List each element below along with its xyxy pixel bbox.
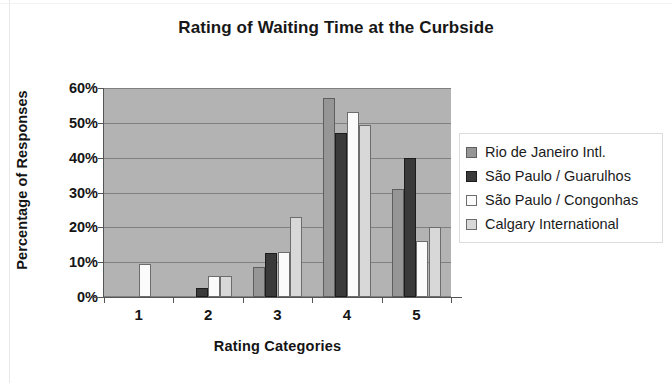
x-axis-tick [312, 297, 313, 303]
legend-label: São Paulo / Guarulhos [485, 168, 631, 184]
bar [278, 252, 290, 297]
y-axis-tick-label: 20% [50, 219, 98, 235]
bar [416, 241, 428, 297]
bar [404, 158, 416, 297]
scan-edge-line-top [0, 3, 672, 4]
bar [208, 276, 220, 297]
legend-item: Calgary International [466, 212, 658, 236]
y-axis-tick [98, 297, 104, 298]
bar [265, 253, 277, 297]
legend-swatch-icon [466, 147, 477, 158]
y-axis-tick [98, 88, 104, 89]
legend-item: São Paulo / Congonhas [466, 188, 658, 212]
y-axis-tick-label: 50% [50, 115, 98, 131]
x-axis-tick-label: 5 [396, 306, 436, 323]
bar [392, 189, 404, 297]
legend-item: São Paulo / Guarulhos [466, 164, 658, 188]
x-axis-tick-label: 2 [188, 306, 228, 323]
x-axis-tick [451, 297, 452, 303]
legend-label: Rio de Janeiro Intl. [485, 144, 606, 160]
y-axis-tick-label: 10% [50, 254, 98, 270]
legend-label: São Paulo / Congonhas [485, 192, 638, 208]
y-axis-tick [98, 158, 104, 159]
y-axis-tick-label: 30% [50, 185, 98, 201]
y-axis-tick [98, 262, 104, 263]
gridline [104, 123, 451, 124]
y-axis-tick-label: 40% [50, 150, 98, 166]
bar [429, 227, 441, 297]
legend-swatch-icon [466, 219, 477, 230]
bar [290, 217, 302, 297]
x-axis-tick-label: 4 [327, 306, 367, 323]
y-axis-tick [98, 123, 104, 124]
bar [253, 267, 265, 297]
y-axis-tick-label: 0% [50, 289, 98, 305]
x-axis-title: Rating Categories [104, 338, 451, 354]
bar [139, 264, 151, 297]
y-axis-tick [98, 227, 104, 228]
x-axis-tick-label: 1 [119, 306, 159, 323]
legend-swatch-icon [466, 171, 477, 182]
bar [323, 98, 335, 297]
chart-title: Rating of Waiting Time at the Curbside [0, 18, 672, 38]
scan-edge-line [9, 0, 10, 383]
x-axis-tick [382, 297, 383, 303]
chart-legend: Rio de Janeiro Intl.São Paulo / Guarulho… [459, 133, 663, 243]
y-axis-tick-labels: 0%10%20%30%40%50%60% [40, 0, 98, 383]
bar [347, 112, 359, 297]
legend-item: Rio de Janeiro Intl. [466, 140, 658, 164]
y-axis-tick [98, 193, 104, 194]
gridline [104, 158, 451, 159]
bar [220, 276, 232, 297]
x-axis-tick [104, 297, 105, 303]
plot-area [104, 88, 451, 297]
legend-swatch-icon [466, 195, 477, 206]
bar [359, 125, 371, 297]
bar [196, 288, 208, 297]
bar [335, 133, 347, 297]
bar-chart: Rating of Waiting Time at the Curbside 0… [0, 0, 672, 383]
gridline [104, 88, 451, 89]
y-axis-title: Percentage of Responses [14, 80, 30, 280]
y-axis-tick-label: 60% [50, 80, 98, 96]
x-axis-tick-label: 3 [258, 306, 298, 323]
x-axis-line [92, 297, 462, 298]
x-axis-tick [173, 297, 174, 303]
legend-label: Calgary International [485, 216, 619, 232]
x-axis-tick [243, 297, 244, 303]
